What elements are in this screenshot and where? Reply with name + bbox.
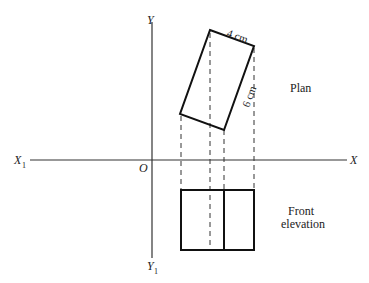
projection-diagram: Y X X 1 Y 1 O 4 cm 6 cm Plan Front eleva… xyxy=(0,0,369,283)
x1-axis-subscript: 1 xyxy=(22,161,26,170)
y1-axis-subscript: 1 xyxy=(154,267,158,276)
plan-title: Plan xyxy=(290,81,311,95)
front-elevation-rectangle xyxy=(181,190,254,250)
y-axis-label: Y xyxy=(147,13,155,27)
plan-rectangle xyxy=(180,30,254,130)
elevation-title-line2: elevation xyxy=(281,217,325,231)
x-axis-label: X xyxy=(349,153,358,167)
x1-axis-label: X xyxy=(13,153,22,167)
plan-length-label: 6 cm xyxy=(240,84,259,109)
elevation-title-line1: Front xyxy=(288,204,315,218)
origin-label: O xyxy=(139,161,148,175)
projection-lines xyxy=(181,33,254,250)
plan-width-label: 4 cm xyxy=(225,27,250,46)
